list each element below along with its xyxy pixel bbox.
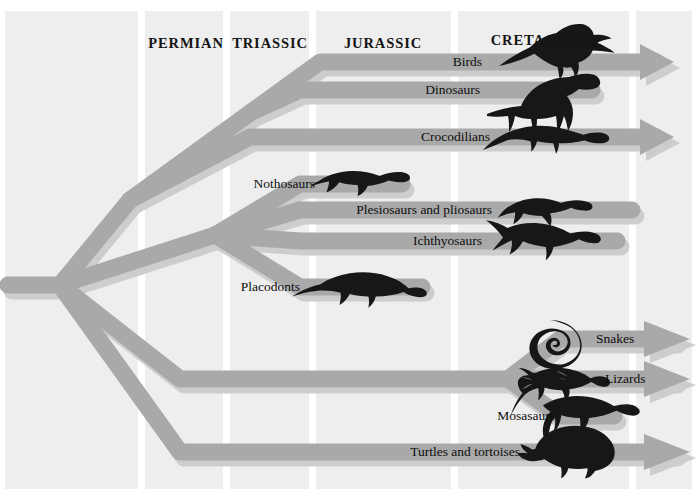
taxon-label-mosasaurs: Mosasaurs <box>497 408 555 424</box>
cladogram-figure: PERMIAN TRIASSIC JURASSIC CRETACEOUS Bir… <box>0 0 697 498</box>
taxon-label-turtles: Turtles and tortoises <box>410 444 520 460</box>
taxon-label-snakes: Snakes <box>596 331 634 347</box>
period-label-jurassic: JURASSIC <box>344 35 422 52</box>
period-label-permian: PERMIAN <box>148 35 224 52</box>
period-label-triassic: TRIASSIC <box>232 35 308 52</box>
taxon-label-crocodilians: Crocodilians <box>421 129 490 145</box>
cladogram-canvas <box>0 0 697 498</box>
taxon-label-plesiosaurs: Plesiosaurs and pliosaurs <box>356 202 492 218</box>
taxon-label-nothosaurs: Nothosaurs <box>254 176 316 192</box>
taxon-label-placodonts: Placodonts <box>241 279 300 295</box>
period-label-cretaceous: CRETACEOUS <box>491 32 600 49</box>
taxon-label-lizards: Lizards <box>605 371 645 387</box>
taxon-label-birds: Birds <box>453 54 482 70</box>
taxon-label-ichthyosaurs: Ichthyosaurs <box>413 233 482 249</box>
taxon-label-dinosaurs: Dinosaurs <box>425 82 480 98</box>
